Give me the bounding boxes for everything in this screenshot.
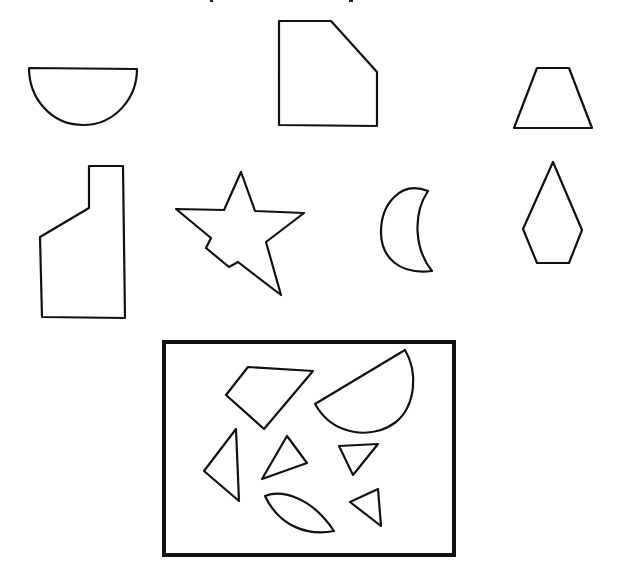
piece-middle-triangle [262,436,307,479]
piece-small-triangle [350,489,381,526]
trapezoid [514,68,592,128]
piece-quadrilateral [226,367,313,429]
puzzle-figure [0,0,620,579]
semicircle [29,68,137,125]
piece-lens [265,494,334,533]
cropped-title-fragments [210,0,353,2]
pieces-box [164,342,454,555]
stepped-column [40,166,125,318]
cut-corner-pentagon [279,21,377,126]
piece-small-inverted-triangle [339,444,378,475]
pieces-box-frame [164,342,454,555]
notched-star [176,172,304,295]
piece-tilted-semicircle [315,350,413,433]
piece-left-triangle [204,429,239,501]
kite-pentagon [523,162,582,263]
reference-shapes [29,21,592,318]
crescent [381,188,432,271]
